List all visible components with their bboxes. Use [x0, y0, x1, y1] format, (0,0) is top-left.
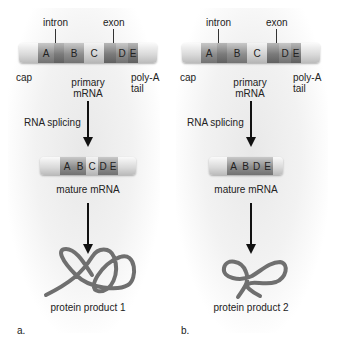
- intron-segment: [54, 43, 64, 63]
- segment-e: E: [108, 157, 118, 175]
- mature-mrna-bar: A B C D E: [40, 157, 136, 175]
- segment-a: A: [38, 43, 54, 63]
- panel-b: intron exon A B C D E cap primary mRNA p…: [168, 0, 336, 344]
- cap-segment: [209, 157, 227, 175]
- polya-segment: [118, 157, 136, 175]
- intron-segment: [217, 43, 227, 63]
- exon-label: exon: [103, 17, 125, 28]
- protein-product-label: protein product 2: [201, 302, 301, 313]
- segment-e: E: [262, 157, 273, 175]
- panel-letter: b.: [181, 325, 189, 336]
- segment-e: E: [128, 43, 138, 63]
- splicing-arrow-line: [87, 101, 89, 138]
- primary-mrna-label-2: mRNA: [232, 88, 268, 99]
- segment-c: C: [84, 43, 104, 63]
- intron-segment: [267, 43, 279, 63]
- protein-product-label: protein product 1: [38, 302, 138, 313]
- translation-arrow-line: [250, 203, 252, 245]
- mature-mrna-bar: A B D E: [209, 157, 283, 175]
- polya-segment: [138, 43, 157, 63]
- segment-c: C: [86, 157, 98, 175]
- primary-mrna-label-1: primary: [232, 77, 268, 88]
- polya-label-2: tail: [131, 83, 144, 94]
- segment-a: A: [227, 157, 240, 175]
- intron-label: intron: [43, 17, 68, 28]
- intron-label: intron: [206, 17, 231, 28]
- segment-b: B: [240, 157, 251, 175]
- panel-letter: a.: [17, 325, 25, 336]
- primary-mrna-label-2: mRNA: [70, 88, 106, 99]
- rna-splicing-label: RNA splicing: [187, 117, 244, 128]
- segment-b: B: [64, 43, 84, 63]
- polya-segment: [273, 157, 283, 175]
- segment-e: E: [291, 43, 301, 63]
- protein-2-icon: [218, 252, 290, 302]
- segment-d: D: [116, 43, 128, 63]
- polya-segment: [301, 43, 320, 63]
- segment-d: D: [279, 43, 291, 63]
- arrow-down-icon: [83, 137, 93, 147]
- protein-1-icon: [40, 245, 140, 300]
- segment-c: C: [247, 43, 267, 63]
- polya-label-1: poly-A: [131, 72, 159, 83]
- rna-splicing-label: RNA splicing: [24, 117, 81, 128]
- primary-mrna-bar: A B C D E: [182, 43, 320, 63]
- cap-segment: [19, 43, 38, 63]
- segment-b: B: [227, 43, 247, 63]
- panel-a: intron exon A B C D E cap primary mRNA p…: [0, 0, 168, 344]
- cap-segment: [182, 43, 201, 63]
- arrow-down-icon: [246, 137, 256, 147]
- segment-a: A: [201, 43, 217, 63]
- polya-label-2: tail: [293, 83, 306, 94]
- cap-segment: [40, 157, 60, 175]
- mature-mrna-label: mature mRNA: [206, 184, 286, 195]
- translation-arrow-line: [87, 203, 89, 245]
- primary-mrna-bar: A B C D E: [19, 43, 157, 63]
- segment-d: D: [98, 157, 108, 175]
- cap-label: cap: [16, 72, 32, 83]
- polya-label-1: poly-A: [293, 72, 321, 83]
- segment-a: A: [60, 157, 74, 175]
- mature-mrna-label: mature mRNA: [48, 184, 128, 195]
- intron-segment: [104, 43, 116, 63]
- primary-mrna-label-1: primary: [70, 77, 106, 88]
- segment-b: B: [74, 157, 86, 175]
- exon-label: exon: [266, 17, 288, 28]
- cap-label: cap: [180, 72, 196, 83]
- segment-d: D: [251, 157, 262, 175]
- splicing-arrow-line: [250, 101, 252, 138]
